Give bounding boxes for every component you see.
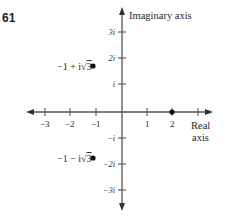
svg-text:−1 − i√3: −1 − i√3 [57, 153, 92, 164]
imag-tick-label: −2i [103, 159, 116, 169]
real-tick-label: −2 [65, 119, 75, 129]
imag-tick-label: 3i [107, 27, 115, 37]
imag-tick-label: 2i [108, 53, 115, 63]
point-real-two [169, 109, 174, 114]
left-arrow-icon [26, 109, 34, 115]
problem-number: 61 [2, 11, 16, 25]
right-arrow-icon [205, 109, 213, 115]
real-axis [26, 109, 213, 115]
radicand: 3 [87, 61, 92, 72]
real-axis-label-line1: Real [191, 120, 210, 131]
complex-plane-diagram: 61 Imaginary axis Real axis −3 −2 −1 1 2 [0, 0, 230, 221]
real-axis-label-line2: axis [192, 132, 209, 143]
imag-tick-label: −3i [103, 185, 116, 195]
imaginary-axis-label: Imaginary axis [129, 10, 192, 21]
real-tick-label: 1 [145, 119, 150, 129]
real-tick-label: −3 [40, 119, 50, 129]
real-tick-label: −1 [91, 119, 101, 129]
imaginary-axis [119, 7, 125, 211]
imag-tick-label: −i [107, 133, 116, 143]
point-label-prefix: −1 − i [57, 153, 81, 164]
point-lower: −1 − i√3 [57, 153, 96, 164]
point-upper: −1 + i√3 [57, 61, 96, 72]
point-label-prefix: −1 + i [57, 61, 81, 72]
imag-tick-label: i [113, 79, 116, 89]
real-tick-label: 2 [170, 119, 175, 129]
down-arrow-icon [119, 203, 125, 211]
point-marker [169, 109, 174, 114]
svg-text:−1 + i√3: −1 + i√3 [57, 61, 92, 72]
radicand: 3 [87, 153, 92, 164]
up-arrow-icon [119, 7, 125, 15]
